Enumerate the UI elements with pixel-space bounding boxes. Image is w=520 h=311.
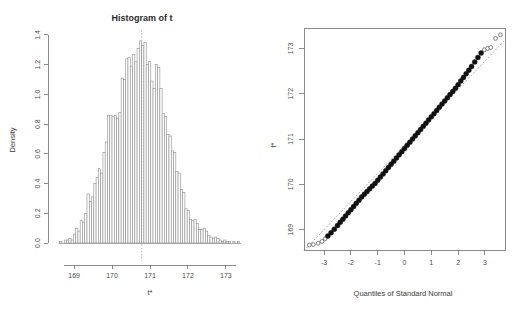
- histogram-bar: [210, 237, 212, 243]
- histogram-y-tick-label: 1.4: [34, 30, 41, 40]
- histogram-bar: [73, 234, 75, 243]
- histogram-bar: [160, 88, 162, 243]
- histogram-bar: [128, 57, 130, 243]
- histogram-y-tick-label: 0.0: [34, 238, 41, 248]
- histogram-bar: [96, 178, 98, 243]
- qq-point-open: [494, 37, 498, 41]
- qq-point-open: [311, 243, 315, 247]
- qq-point-open: [307, 243, 311, 247]
- histogram-bar: [103, 152, 105, 243]
- histogram-bar: [203, 228, 205, 243]
- histogram-bar: [76, 228, 78, 243]
- qq-x-tick-label: 0: [403, 259, 407, 266]
- qq-y-tick-label: 173: [287, 42, 294, 54]
- histogram-y-tick-label: 0.2: [34, 208, 41, 218]
- histogram-bar: [178, 173, 180, 243]
- histogram-bar: [196, 224, 198, 243]
- histogram-bar: [192, 221, 194, 243]
- histogram-bar: [110, 115, 112, 243]
- histogram-x-tick-label: 170: [106, 272, 118, 279]
- histogram-bar: [171, 151, 173, 243]
- histogram-y-axis-label: Density: [8, 127, 17, 152]
- histogram-bar: [189, 219, 191, 243]
- histogram-bar: [107, 115, 109, 243]
- histogram-bar: [174, 152, 176, 243]
- histogram-y-axis: 0.00.20.40.60.81.01.21.4: [34, 30, 48, 248]
- histogram-bar: [98, 169, 100, 243]
- qq-x-tick-label: 3: [483, 259, 487, 266]
- qq-y-axis: 169170171172173: [287, 42, 304, 235]
- histogram-bar: [153, 88, 155, 243]
- histogram-panel: Histogram of t Density t* 0.00.20.40.60.…: [0, 0, 260, 311]
- histogram-bar: [219, 240, 221, 243]
- histogram-bar: [112, 117, 114, 243]
- qq-x-tick-label: -1: [375, 259, 381, 266]
- qq-point-open: [489, 46, 493, 50]
- qq-x-tick-label: -3: [321, 259, 327, 266]
- histogram-bar: [205, 231, 207, 243]
- histogram-bar: [126, 59, 128, 243]
- histogram-x-tick-label: 173: [220, 272, 232, 279]
- histogram-bar: [78, 231, 80, 243]
- histogram-bar: [201, 230, 203, 243]
- qq-y-tick-label: 171: [287, 133, 294, 145]
- qq-point-open: [320, 239, 324, 243]
- histogram-bar: [87, 194, 89, 243]
- histogram-bar: [164, 117, 166, 243]
- histogram-bar: [199, 230, 201, 243]
- qq-point: [475, 55, 480, 60]
- histogram-x-tick-label: 172: [182, 272, 194, 279]
- histogram-bar: [146, 65, 148, 243]
- histogram-bar: [180, 190, 182, 243]
- qq-point-open: [316, 241, 320, 245]
- histogram-bars: [59, 41, 241, 243]
- histogram-bar: [105, 142, 107, 243]
- histogram-y-tick-label: 0.6: [34, 149, 41, 159]
- histogram-bar: [155, 65, 157, 243]
- histogram-bar: [121, 78, 123, 243]
- histogram-bar: [194, 219, 196, 243]
- histogram-bar: [217, 239, 219, 243]
- histogram-x-axis: 169170171172173: [64, 265, 236, 279]
- qq-plot-panel: t* Quantiles of Standard Normal 16917017…: [260, 0, 520, 311]
- histogram-bar: [123, 80, 125, 243]
- histogram-bar: [144, 42, 146, 243]
- histogram-bar: [176, 172, 178, 243]
- histogram-bar: [137, 48, 139, 243]
- histogram-bar: [85, 213, 87, 243]
- figure-root: Histogram of t Density t* 0.00.20.40.60.…: [0, 0, 520, 311]
- histogram-bar: [66, 240, 68, 243]
- histogram-bar: [135, 62, 137, 243]
- histogram-bar: [82, 222, 84, 243]
- histogram-bar: [133, 54, 135, 243]
- qq-point: [472, 59, 477, 64]
- histogram-bar: [167, 135, 169, 243]
- histogram-bar: [208, 236, 210, 243]
- histogram-bar: [212, 239, 214, 243]
- histogram-bar: [162, 114, 164, 243]
- histogram-bar: [94, 184, 96, 243]
- qq-y-axis-label: t*: [269, 142, 278, 147]
- histogram-bar: [117, 118, 119, 243]
- histogram-bar: [158, 68, 160, 243]
- qq-y-tick-label: 170: [287, 178, 294, 190]
- qq-x-tick-label: -2: [348, 259, 354, 266]
- histogram-x-tick-label: 171: [144, 272, 156, 279]
- histogram-svg: Histogram of t Density t* 0.00.20.40.60.…: [0, 0, 260, 311]
- histogram-bar: [183, 192, 185, 243]
- histogram-y-tick-label: 0.8: [34, 119, 41, 129]
- histogram-title: Histogram of t: [111, 13, 172, 23]
- histogram-bar: [130, 66, 132, 243]
- histogram-bar: [64, 240, 66, 243]
- qq-data-points: [307, 33, 502, 247]
- qq-x-tick-label: 2: [456, 259, 460, 266]
- histogram-bar: [92, 197, 94, 243]
- histogram-bar: [224, 240, 226, 243]
- histogram-bar: [185, 209, 187, 243]
- histogram-bar: [89, 201, 91, 243]
- histogram-bar: [101, 173, 103, 243]
- qq-y-tick-label: 172: [287, 88, 294, 100]
- qq-x-axis: -3-2-10123: [321, 250, 487, 266]
- histogram-bar: [69, 239, 71, 243]
- qq-point-open: [499, 33, 503, 37]
